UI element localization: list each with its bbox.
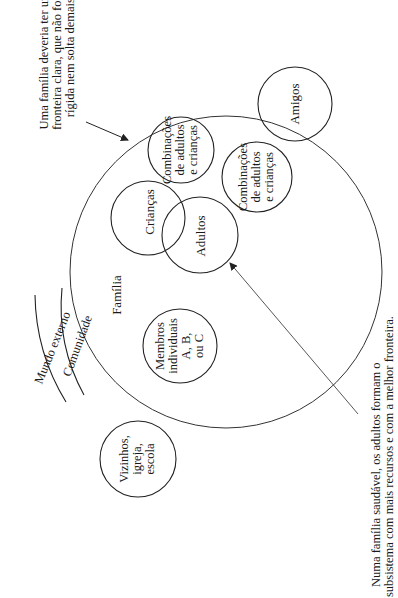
combinacoes-1-label: Combinações de adultos e crianças — [161, 116, 200, 184]
bottom-annotation: Numa família saudável, os adultos formam… — [370, 316, 396, 597]
combinacoes-2-label: Combinações de adultos e crianças — [237, 143, 276, 211]
boundary-arrow — [86, 122, 128, 140]
vizinhos-label: Vizinhos, igreja, escola — [118, 435, 157, 483]
adults-arrow — [230, 263, 358, 414]
family-boundary-circle — [70, 116, 382, 428]
family-label: Família — [110, 275, 124, 315]
criancas-label: Crianças — [143, 189, 157, 234]
adultos-label: Adultos — [194, 215, 208, 256]
bottom-annotation-line-2: subsistema com mais recursos e com a mel… — [383, 316, 396, 597]
top-annotation-line-3: rígida nem solta demais — [64, 0, 77, 130]
top-annotation: Uma família deveria ter uma fronteira cl… — [38, 0, 77, 130]
membros-label: Membros individuais A, B, ou C — [154, 318, 207, 374]
amigos-label: Amigos — [288, 83, 302, 124]
